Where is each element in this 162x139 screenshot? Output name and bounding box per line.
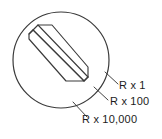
callout-label-r-x-100: R x 100 xyxy=(110,95,149,107)
diagram-canvas xyxy=(0,0,162,139)
callout-label-r-x-10000: R x 10,000 xyxy=(82,113,137,125)
leader-line-r-x-1 xyxy=(105,72,118,84)
detail-diagram-figure: R x 1 R x 100 R x 10,000 xyxy=(0,0,162,139)
callout-label-r-x-1: R x 1 xyxy=(119,79,146,91)
